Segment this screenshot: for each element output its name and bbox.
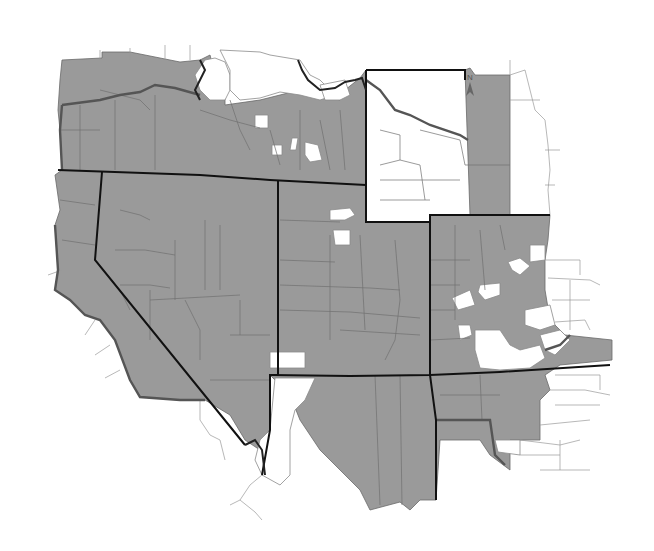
north-arrow-label: N: [467, 73, 473, 82]
map-container: N: [0, 0, 654, 551]
county-map: N: [0, 0, 654, 551]
